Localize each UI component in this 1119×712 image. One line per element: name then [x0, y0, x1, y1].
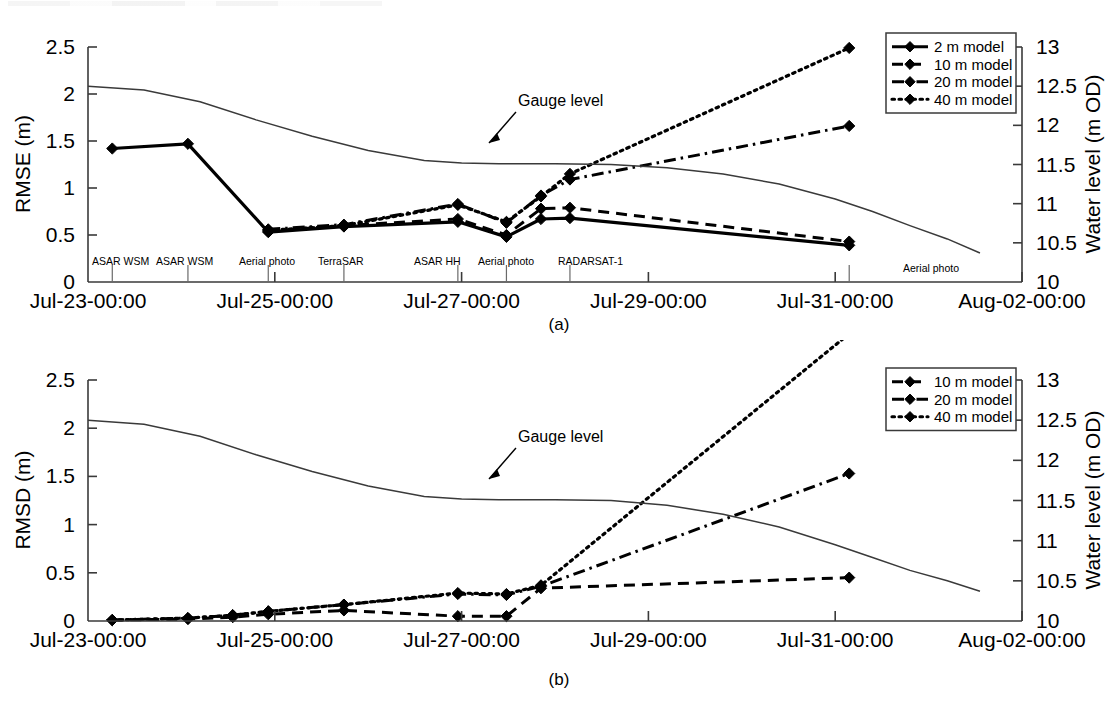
data-point-marker: [501, 588, 512, 599]
legend-item-label: 20 m model: [934, 391, 1012, 408]
y-tick-label-right: 11.5: [1036, 489, 1075, 512]
y-tick-label-left: 0.5: [46, 561, 75, 584]
data-point-marker: [452, 587, 463, 598]
series-line: [112, 578, 849, 620]
gauge-arrow-head-b: [489, 469, 500, 479]
event-label: Aerial photo: [903, 262, 959, 274]
series-line: [112, 144, 849, 246]
series-line: [268, 48, 849, 230]
x-tick-label: Jul-23-00:00: [30, 289, 147, 312]
data-point-marker: [182, 613, 193, 624]
y-tick-label-left: 0.5: [46, 223, 75, 246]
legend-item-label: 10 m model: [934, 373, 1012, 390]
figure-root: 00.511.522.51010.51111.51212.513Jul-23-0…: [0, 0, 1119, 712]
legend-item-label: 20 m model: [934, 73, 1012, 90]
panel-b-svg: 00.511.522.51010.51111.51212.513Jul-23-0…: [0, 340, 1119, 712]
axis-ticks-a: [88, 47, 1022, 282]
gauge-level-annotation-b: Gauge level: [518, 428, 603, 445]
data-point-marker: [107, 614, 118, 625]
event-label: Aerial photo: [478, 255, 534, 267]
y-tick-label-right: 11.5: [1036, 153, 1075, 176]
series-40-m-model: [107, 340, 855, 626]
right-axis-title-a: Water level (m OD): [1081, 75, 1104, 254]
series-line: [88, 420, 980, 591]
y-tick-label-right: 10.5: [1036, 569, 1077, 592]
y-tick-label-right: 10.5: [1036, 231, 1077, 254]
event-label: TerraSAR: [318, 255, 364, 267]
series-2-m-model: [107, 138, 855, 251]
legend-item-label: 10 m model: [934, 56, 1012, 73]
x-tick-label: Jul-25-00:00: [216, 628, 333, 651]
y-tick-label-right: 13: [1036, 368, 1059, 391]
x-tick-label: Jul-27-00:00: [403, 289, 520, 312]
event-label: ASAR WSM: [92, 255, 149, 267]
legend-item-label: 40 m model: [934, 408, 1012, 425]
y-tick-label-left: 1: [63, 176, 75, 199]
panel-b: 00.511.522.51010.51111.51212.513Jul-23-0…: [0, 340, 1119, 712]
data-point-marker: [844, 120, 855, 131]
legend-item-label: 40 m model: [934, 91, 1012, 108]
y-tick-label-right: 12: [1036, 113, 1059, 136]
data-point-marker: [844, 572, 855, 583]
series-20-m-model: [107, 468, 855, 626]
legend-b: 10 m model20 m model40 m model: [886, 368, 1016, 431]
y-tick-label-left: 1: [63, 513, 75, 536]
y-tick-label-right: 11: [1036, 529, 1058, 552]
series-gauge-level: [88, 86, 980, 253]
panel-a-svg: 00.511.522.51010.51111.51212.513Jul-23-0…: [0, 0, 1119, 340]
gauge-arrow-head-a: [489, 133, 500, 143]
plot-area-a: [88, 42, 980, 253]
axis-ticks-b: [88, 380, 1022, 621]
y-tick-label-left: 2: [63, 82, 75, 105]
series-line: [112, 340, 849, 620]
series-line: [88, 86, 980, 253]
event-label: Aerial photo: [239, 255, 295, 267]
y-tick-label-right: 12.5: [1036, 408, 1077, 431]
y-tick-label-left: 1.5: [46, 464, 75, 487]
x-tick-label: Aug-02-00:00: [958, 628, 1085, 651]
series-40-m-model: [263, 42, 855, 236]
x-tick-label: Jul-25-00:00: [216, 289, 333, 312]
data-point-marker: [452, 199, 463, 210]
y-tick-label-left: 1.5: [46, 129, 75, 152]
right-axis-title-b: Water level (m OD): [1081, 411, 1104, 590]
y-tick-label-left: 2.5: [46, 368, 75, 391]
x-tick-label: Jul-27-00:00: [403, 628, 520, 651]
data-point-marker: [338, 220, 349, 231]
legend-item-label: 2 m model: [934, 38, 1004, 55]
panel-caption-a: (a): [549, 315, 570, 334]
panel-a: 00.511.522.51010.51111.51212.513Jul-23-0…: [0, 0, 1119, 340]
y-tick-label-left: 2: [63, 416, 75, 439]
data-point-marker: [564, 202, 575, 213]
event-label: ASAR WSM: [156, 255, 213, 267]
x-tick-label: Jul-29-00:00: [590, 289, 707, 312]
gauge-level-annotation-a: Gauge level: [518, 92, 603, 109]
left-axis-title-a: RMSE (m): [11, 115, 34, 213]
left-axis-title-b: RMSD (m): [11, 450, 34, 549]
x-tick-label: Jul-23-00:00: [30, 628, 147, 651]
x-tick-label: Jul-29-00:00: [590, 628, 707, 651]
panel-caption-b: (b): [549, 670, 570, 689]
y-tick-label-right: 13: [1036, 35, 1059, 58]
data-point-marker: [844, 468, 855, 479]
series-gauge-level: [88, 420, 980, 591]
x-tick-label: Jul-31-00:00: [777, 289, 894, 312]
data-point-marker: [107, 143, 118, 154]
event-label: RADARSAT-1: [558, 255, 623, 267]
event-label: ASAR HH: [414, 255, 461, 267]
data-point-marker: [535, 213, 546, 224]
data-point-marker: [844, 42, 855, 53]
y-tick-label-right: 12: [1036, 448, 1059, 471]
event-markers-a: ASAR WSMASAR WSMAerial photoTerraSARASAR…: [92, 255, 959, 282]
y-tick-label-right: 11: [1036, 192, 1058, 215]
y-tick-label-left: 2.5: [46, 35, 75, 58]
legend-a: 2 m model10 m model20 m model40 m model: [886, 33, 1016, 113]
series-line: [268, 126, 849, 229]
series-line: [112, 474, 849, 621]
x-tick-label: Aug-02-00:00: [958, 289, 1085, 312]
y-tick-label-right: 12.5: [1036, 74, 1077, 97]
x-tick-label: Jul-31-00:00: [777, 628, 894, 651]
plot-area-b: [88, 340, 980, 626]
data-point-marker: [564, 212, 575, 223]
